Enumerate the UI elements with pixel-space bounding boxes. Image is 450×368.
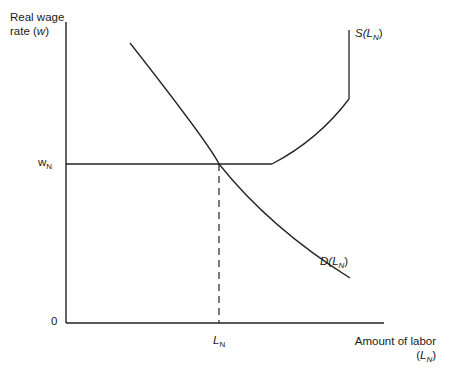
x-axis-label: Amount of labor (LN) <box>352 334 436 367</box>
supply-curve-label: S(LN) <box>355 26 383 45</box>
chart-canvas <box>0 0 450 368</box>
wage-tick-sub: N <box>46 162 52 171</box>
y-axis-label: Real wage rate (w) <box>10 10 64 38</box>
demand-label-close: ) <box>344 255 348 267</box>
wage-tick-label: wN <box>38 155 52 174</box>
origin-label: 0 <box>51 314 57 328</box>
labor-tick-label: LN <box>213 333 225 352</box>
y-axis-variable: w <box>37 25 45 37</box>
y-axis-label-line1: Real wage <box>10 11 64 23</box>
demand-label-prefix: D( <box>320 255 332 267</box>
y-axis-label-close: ) <box>45 25 49 37</box>
supply-label-close: ) <box>379 27 383 39</box>
x-axis-label-line1: Amount of labor <box>355 335 436 347</box>
labor-tick-sub: N <box>219 340 225 349</box>
y-axis-label-line2: rate ( <box>10 25 37 37</box>
demand-curve <box>130 43 350 278</box>
x-axis-paren-close: ) <box>432 349 436 361</box>
supply-rising-segment <box>272 99 349 164</box>
supply-label-prefix: S( <box>355 27 367 39</box>
demand-curve-label: D(LN) <box>320 254 348 273</box>
